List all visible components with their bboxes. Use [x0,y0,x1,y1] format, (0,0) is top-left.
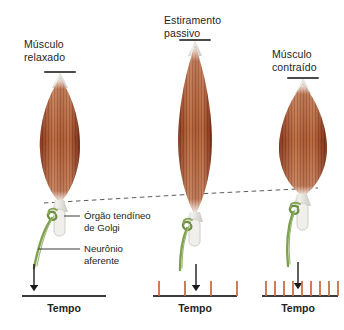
muscle-belly-relaxed [40,78,80,202]
panel-title-relaxed: Músculo relaxado [24,38,65,63]
spike-train-contracted [266,281,338,296]
callout-label-golgi-tendon-organ: Órgão tendíneo de Golgi [84,210,151,233]
panel-contracted [262,77,338,296]
spike-train-stretch [159,281,237,296]
time-axis-stretch [153,281,237,296]
figure-canvas: Músculo relaxado Estiramento passivo Mús… [0,0,344,330]
callout-label-afferent-neuron: Neurônio aferente [84,243,123,266]
panel-title-passive-stretch: Estiramento passivo [164,14,221,39]
dashed-alignment-line [44,188,318,203]
golgi-tendon-organ-contracted [294,194,311,230]
panel-title-contracted: Músculo contraído [272,48,317,73]
afferent-neuron-contracted [287,203,300,266]
axis-label-tempo-relaxed: Tempo [24,302,104,314]
muscle-belly-stretch [178,46,212,214]
time-axis-contracted [262,281,338,296]
panel-passive-stretch [153,39,237,296]
muscle-belly-contracted [279,84,327,196]
axis-label-tempo-passive-stretch: Tempo [155,302,235,314]
axis-label-tempo-contracted: Tempo [258,302,338,314]
golgi-tendon-organ-relaxed [52,200,68,236]
